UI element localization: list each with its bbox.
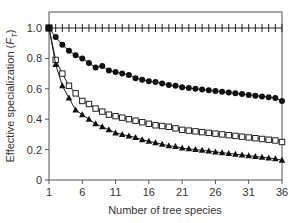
circle-marker: [192, 86, 198, 92]
square-marker: [239, 134, 244, 139]
triangle-marker: [92, 120, 99, 126]
circle-marker: [139, 77, 145, 83]
square-marker: [153, 123, 158, 128]
square-marker: [279, 139, 284, 144]
series-open-square: [46, 25, 284, 144]
square-marker: [166, 124, 171, 129]
circle-marker: [66, 48, 72, 54]
circle-marker: [259, 93, 265, 99]
circle-marker: [166, 82, 172, 88]
square-marker: [113, 113, 118, 118]
square-marker: [186, 128, 191, 133]
square-marker: [259, 136, 264, 141]
circle-marker: [59, 42, 65, 48]
x-tick-label: 26: [209, 186, 221, 198]
square-marker: [219, 132, 224, 137]
square-marker: [226, 132, 231, 137]
y-axis: 00.20.40.60.81.0: [27, 22, 49, 186]
triangle-marker: [106, 126, 113, 132]
triangle-marker: [86, 116, 93, 122]
y-axis-label: Effective specialization (FT): [4, 29, 19, 162]
circle-marker: [146, 78, 152, 84]
circle-marker: [212, 88, 218, 94]
x-tick-label: 21: [176, 186, 188, 198]
square-marker: [60, 71, 65, 76]
square-marker: [173, 126, 178, 131]
square-marker: [179, 127, 184, 132]
circle-marker: [206, 87, 212, 93]
circle-marker: [93, 65, 99, 71]
triangle-marker: [66, 94, 73, 100]
circle-marker: [219, 89, 225, 95]
square-marker: [199, 129, 204, 134]
square-marker: [273, 138, 278, 143]
series-filled-circle: [46, 25, 285, 104]
x-tick-label: 31: [243, 186, 255, 198]
circle-marker: [186, 85, 192, 91]
square-marker: [233, 133, 238, 138]
circle-marker: [179, 84, 185, 90]
square-marker: [206, 130, 211, 135]
x-tick-label: 6: [79, 186, 85, 198]
square-marker: [253, 136, 258, 141]
circle-marker: [266, 94, 272, 100]
circle-marker: [79, 55, 85, 61]
square-marker: [140, 120, 145, 125]
circle-marker: [172, 83, 178, 89]
y-tick-label: 0.6: [27, 83, 42, 95]
x-tick-label: 11: [110, 186, 121, 198]
circle-marker: [119, 71, 125, 77]
circle-marker: [199, 87, 205, 93]
square-marker: [213, 131, 218, 136]
square-marker: [106, 112, 111, 117]
circle-marker: [73, 52, 79, 58]
triangle-marker: [72, 107, 79, 113]
circle-marker: [159, 80, 165, 86]
triangle-marker: [59, 82, 66, 88]
square-marker: [66, 83, 71, 88]
triangle-marker: [79, 111, 86, 117]
square-marker: [126, 117, 131, 122]
y-tick-label: 1.0: [27, 22, 42, 34]
chart: 00.20.40.60.81.0 16111621263136 Number o…: [0, 0, 298, 223]
square-marker: [246, 135, 251, 140]
circle-marker: [272, 95, 278, 101]
circle-marker: [99, 63, 105, 69]
x-tick-label: 1: [46, 186, 52, 198]
square-marker: [266, 137, 271, 142]
circle-marker: [113, 69, 119, 75]
x-tick-label: 16: [143, 186, 155, 198]
square-marker: [100, 109, 105, 114]
circle-marker: [106, 68, 112, 74]
circle-marker: [246, 92, 252, 98]
square-marker: [120, 115, 125, 120]
series-plus: [49, 24, 282, 32]
circle-marker: [126, 72, 132, 78]
square-marker: [146, 121, 151, 126]
circle-marker: [153, 79, 159, 85]
y-tick-label: 0.8: [27, 52, 42, 64]
circle-marker: [252, 93, 258, 99]
square-marker: [73, 91, 78, 96]
square-marker: [86, 101, 91, 106]
circle-marker: [226, 90, 232, 96]
y-tick-label: 0.4: [27, 113, 42, 125]
circle-marker: [279, 98, 285, 104]
y-tick-label: 0.2: [27, 144, 42, 156]
x-tick-label: 36: [276, 186, 288, 198]
x-axis: 16111621263136: [46, 180, 288, 198]
square-marker: [133, 118, 138, 123]
start-marker: [46, 25, 53, 32]
square-marker: [80, 98, 85, 103]
circle-marker: [232, 90, 238, 96]
triangle-marker: [99, 123, 106, 129]
circle-marker: [239, 91, 245, 97]
x-axis-label: Number of tree species: [108, 204, 222, 216]
y-tick-label: 0: [36, 174, 42, 186]
circle-marker: [133, 75, 139, 81]
square-marker: [193, 129, 198, 134]
circle-marker: [53, 34, 59, 40]
square-marker: [93, 106, 98, 111]
triangle-marker: [112, 129, 119, 135]
series-group: [46, 24, 286, 163]
